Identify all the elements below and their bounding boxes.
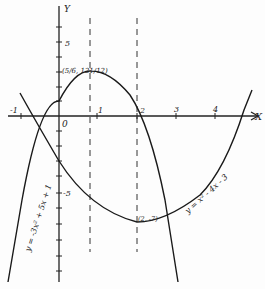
x-tick-label-1: 1 (98, 106, 103, 115)
y-tick-label-5: 5 (65, 39, 70, 48)
vertex-label-down: (5/6, 121/12) (62, 67, 108, 75)
x-axis-label: X (254, 111, 263, 122)
y-axis-label: Y (64, 4, 71, 14)
origin-label: 0 (62, 119, 68, 129)
y-tick-label-neg5: -5 (63, 189, 71, 198)
x-tick-label-3: 3 (174, 105, 179, 114)
graph-svg: Y X 0 -1 1 2 3 4 5 -5 (5/6, 121/12) (2, … (0, 0, 265, 289)
x-tick-label-4: 4 (212, 105, 218, 114)
curve-parabola-down (8, 71, 178, 282)
x-tick-label-2: 2 (139, 106, 145, 115)
equation-label-down: y = -3x² + 5x + 1 (23, 183, 54, 253)
equation-label-up: y = x² - 4x - 3 (183, 172, 230, 216)
graph-figure: Y X 0 -1 1 2 3 4 5 -5 (5/6, 121/12) (2, … (0, 0, 265, 289)
x-tick-label-neg1: -1 (10, 106, 18, 115)
vertex-label-up: (2, -7) (138, 215, 158, 223)
